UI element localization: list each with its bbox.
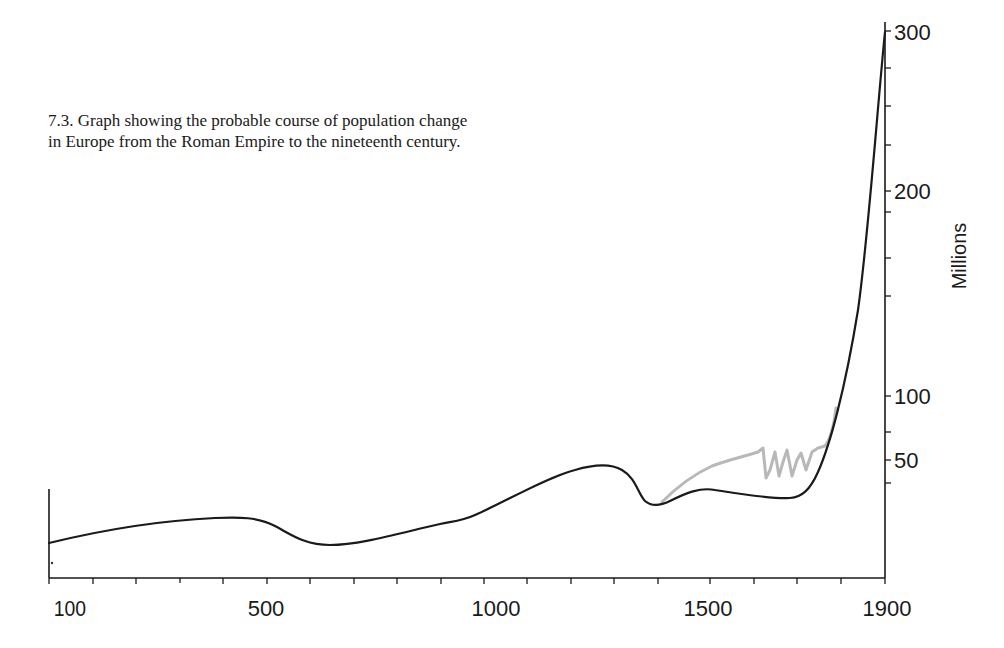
x-label-1500: 1500 — [684, 596, 733, 621]
x-axis-ticks — [49, 578, 885, 584]
x-label-500: 500 — [248, 596, 285, 621]
axes — [49, 22, 885, 578]
y-axis-ticks — [885, 31, 891, 483]
y-axis-title: Millions — [948, 223, 970, 290]
x-tick-labels: 100 500 1000 1500 1900 — [54, 596, 912, 621]
y-label-200: 200 — [894, 179, 931, 204]
stray-mark — [51, 562, 53, 564]
y-label-100: 100 — [894, 384, 931, 409]
population-line — [49, 32, 885, 545]
x-label-1900: 1900 — [863, 596, 912, 621]
population-chart: 100 500 1000 1500 1900 300 200 100 50 Mi… — [0, 0, 1004, 648]
y-label-50: 50 — [894, 448, 918, 473]
y-label-300: 300 — [894, 20, 931, 45]
x-label-100: 100 — [54, 596, 86, 620]
x-label-1000: 1000 — [472, 596, 521, 621]
y-tick-labels: 300 200 100 50 — [894, 20, 931, 473]
